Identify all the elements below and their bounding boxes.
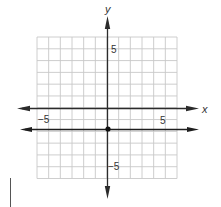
y-axis-down-arrow-icon [105, 186, 110, 199]
y-tick-label-negative: −5 [108, 161, 120, 172]
coordinate-plane-figure: y x 5 −5 −5 5 [0, 0, 221, 207]
x-axis-label: x [201, 103, 208, 115]
graph-canvas: y x 5 −5 −5 5 [0, 0, 221, 207]
y-axis-label: y [104, 3, 112, 15]
plotted-point [105, 126, 110, 131]
x-axis-left-arrow-icon [17, 106, 30, 111]
x-tick-label-positive: 5 [160, 115, 166, 126]
x-axis-right-arrow-icon [186, 106, 199, 111]
line-right-arrow-icon [187, 127, 199, 132]
x-tick-label-negative: −5 [38, 114, 50, 125]
line-left-arrow-icon [20, 127, 32, 132]
y-tick-label-positive: 5 [111, 44, 117, 55]
y-axis-up-arrow-icon [105, 16, 110, 29]
